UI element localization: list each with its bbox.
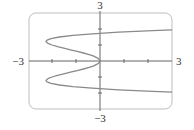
plot-area: 3 −3 −3 3 <box>0 0 194 130</box>
x-min-label: −3 <box>12 55 24 67</box>
y-max-label: 3 <box>97 0 103 11</box>
y-min-label: −3 <box>94 112 106 124</box>
x-max-label: 3 <box>176 55 182 67</box>
